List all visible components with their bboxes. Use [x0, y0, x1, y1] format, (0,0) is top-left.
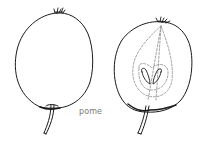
- pome-diagram: pome: [0, 0, 203, 144]
- seeds: [141, 68, 161, 84]
- core-outline: [133, 26, 173, 97]
- stalk-icon: [40, 105, 60, 135]
- cut-fruit-drawing: [114, 17, 192, 134]
- calyx-icon: [54, 8, 65, 13]
- whole-fruit-outline: [15, 13, 92, 108]
- core-section: [133, 26, 173, 100]
- seed-left: [141, 68, 150, 84]
- pome-label: pome: [79, 107, 102, 116]
